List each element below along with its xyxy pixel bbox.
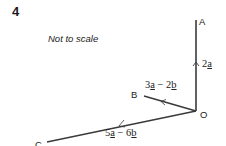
vector-oc-v2: b <box>131 127 136 138</box>
point-o-label: O <box>200 109 207 120</box>
vector-oa-label: 2a <box>202 58 212 69</box>
vector-oc-op: − <box>115 127 126 138</box>
vector-ob-op: − <box>155 79 166 90</box>
vector-ob-v2: b <box>171 79 176 90</box>
point-b-label: B <box>131 89 137 100</box>
point-c-label: C <box>35 139 42 146</box>
point-a-label: A <box>199 16 205 27</box>
vector-oa-var: a <box>207 58 212 69</box>
line-ob <box>144 96 196 111</box>
vector-diagram <box>0 0 226 146</box>
vector-oc-label: 5a − 6b <box>105 127 137 138</box>
vector-ob-label: 3a − 2b <box>145 79 177 90</box>
